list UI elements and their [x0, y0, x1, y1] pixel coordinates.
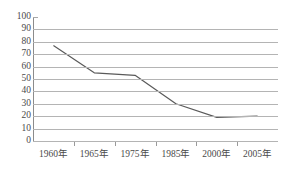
gridline-50 [33, 79, 278, 80]
x-tick-mark-2 [156, 142, 157, 146]
gridline-20 [33, 116, 278, 117]
gridline-90 [33, 29, 278, 30]
gridline-100 [33, 17, 38, 18]
plot-area [33, 17, 278, 141]
y-tick-label-20: 20 [3, 111, 31, 121]
y-tick-label-100: 100 [3, 12, 31, 22]
x-tick-label-1: 1965年 [80, 149, 109, 159]
y-tick-label-0: 0 [3, 136, 31, 146]
y-tick-label-40: 40 [3, 86, 31, 96]
y-tick-label-90: 90 [3, 24, 31, 34]
y-tick-label-10: 10 [3, 124, 31, 134]
y-tick-label-70: 70 [3, 49, 31, 59]
x-tick-label-2: 1975年 [121, 149, 150, 159]
gridline-70 [33, 54, 278, 55]
clipped-title-text [28, 0, 178, 3]
gridline-80 [33, 42, 278, 43]
y-tick-label-50: 50 [3, 74, 31, 84]
gridline-40 [33, 91, 278, 92]
line-chart: 1009080706050403020100 1960年1965年1975年19… [0, 0, 284, 171]
x-tick-label-5: 2005年 [243, 149, 272, 159]
x-tick-mark-1 [115, 142, 116, 146]
y-axis-labels: 1009080706050403020100 [0, 0, 31, 171]
x-tick-label-4: 2000年 [202, 149, 231, 159]
gridline-30 [33, 104, 278, 105]
gridline-10 [33, 129, 278, 130]
y-tick-label-60: 60 [3, 62, 31, 72]
x-tick-mark-0 [74, 142, 75, 146]
x-tick-mark-4 [237, 142, 238, 146]
y-tick-label-30: 30 [3, 99, 31, 109]
x-tick-mark-3 [196, 142, 197, 146]
x-tick-label-3: 1985年 [161, 149, 190, 159]
y-tick-label-80: 80 [3, 37, 31, 47]
x-tick-label-0: 1960年 [39, 149, 68, 159]
gridline-60 [33, 67, 278, 68]
